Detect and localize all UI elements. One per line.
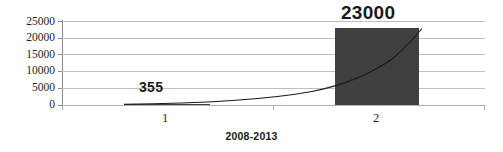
x-axis-category-label-2: 2	[356, 111, 396, 126]
y-axis-tick-label: 20000	[0, 32, 55, 43]
data-label-category-1: 355	[139, 79, 163, 95]
x-axis-title: 2008-2013	[0, 130, 503, 142]
x-axis-tick-mid	[273, 105, 274, 110]
x-axis-category-label-1: 1	[145, 111, 185, 126]
chart-container: 25000 20000 15000 10000 5000 0	[0, 0, 503, 152]
x-axis-tick-start	[62, 105, 63, 110]
y-axis-tick-label: 0	[0, 99, 55, 110]
y-axis-tick-label: 15000	[0, 49, 55, 60]
trendline-curve	[62, 21, 485, 105]
y-axis-tick-label: 10000	[0, 65, 55, 76]
data-label-category-2: 23000	[341, 2, 395, 24]
y-axis-tick-label: 25000	[0, 16, 55, 27]
x-axis-tick-end	[484, 105, 485, 110]
plot-area	[62, 21, 485, 105]
y-axis-tick-label: 5000	[0, 82, 55, 93]
